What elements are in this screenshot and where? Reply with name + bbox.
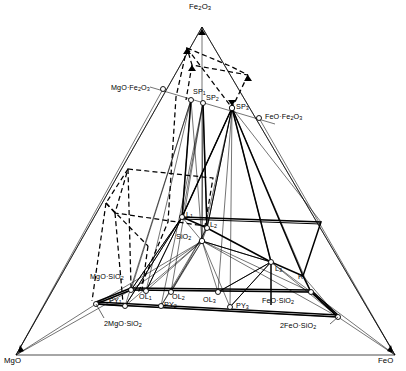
marker-py3 <box>228 305 233 310</box>
marker-sio2 <box>199 238 204 243</box>
marker-sp2 <box>201 101 206 106</box>
label-r: R <box>298 273 303 280</box>
corner-label-fe2o3: Fe2O3 <box>189 3 211 11</box>
label-feo-fe2o3: FeO·Fe2O3 <box>265 113 302 120</box>
marker-l1 <box>180 215 185 220</box>
label-ol3: OL3 <box>203 296 216 303</box>
marker-sp1 <box>189 98 194 103</box>
diagram-canvas <box>0 0 406 371</box>
label-l1: L1 <box>186 211 193 218</box>
label-mgo-sio2: MgO·SiO2 <box>90 273 124 280</box>
label-2mgo-sio2: 2MgO·SiO2 <box>104 320 142 327</box>
marker-py1 <box>123 304 128 309</box>
marker-l3 <box>269 260 274 265</box>
label-l2: L2 <box>210 221 217 228</box>
marker-sp3 <box>229 105 234 110</box>
label-l3: L3 <box>275 265 282 272</box>
marker-py2 <box>159 304 164 309</box>
label-ol1: OL1 <box>139 293 152 300</box>
label-py1: PY1 <box>109 297 122 304</box>
label-py3: PY3 <box>236 302 249 309</box>
label-feo-sio2: FeO·SiO2 <box>262 297 294 304</box>
marker-feo-sio2 <box>309 290 314 295</box>
label-sp3: SP3 <box>236 103 249 110</box>
ternary-phase-diagram: Fe2O3 MgO FeO MgO·Fe2O3 FeO·Fe2O3 SP1 SP… <box>0 0 406 371</box>
marker-mgo-fe2o3 <box>161 87 166 92</box>
label-py2: PY2 <box>164 301 177 308</box>
marker-mgo-sio2 <box>129 288 134 293</box>
label-2feo-sio2: 2FeO·SiO2 <box>280 322 316 329</box>
label-mgo-fe2o3: MgO·Fe2O3 <box>111 84 150 91</box>
marker-ol3 <box>216 290 221 295</box>
label-sio2: SiO2 <box>176 233 191 240</box>
label-sp1: SP1 <box>193 88 206 95</box>
marker-feo-fe2o3 <box>257 116 262 121</box>
corner-label-mgo: MgO <box>4 357 21 365</box>
solid-surface-edges <box>96 100 338 317</box>
marker-l2 <box>205 226 210 231</box>
corner-label-feo: FeO <box>378 357 393 365</box>
label-sp2: SP2 <box>206 94 219 101</box>
